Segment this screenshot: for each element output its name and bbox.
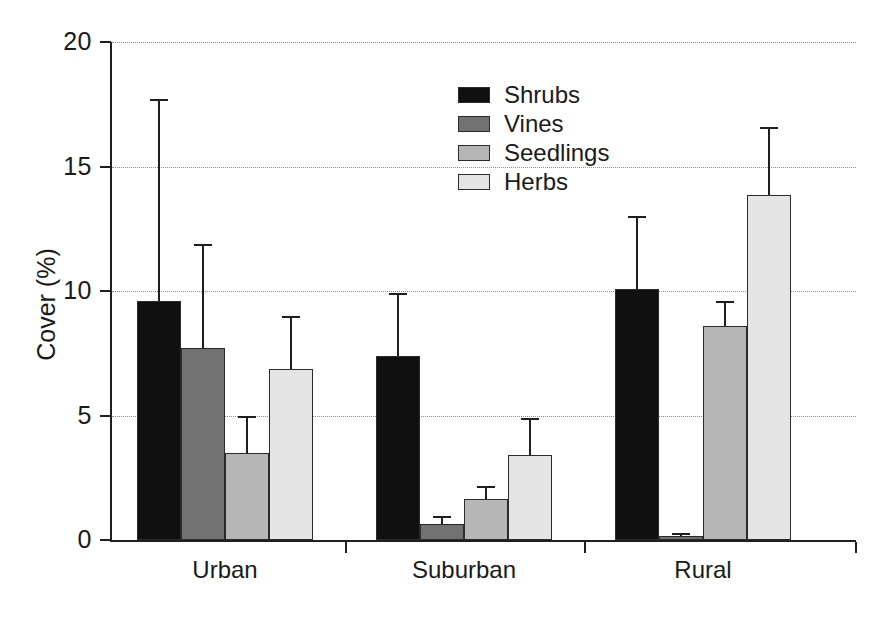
error-bar-cap	[477, 486, 495, 488]
y-axis-tick	[100, 290, 111, 292]
error-bar-stem	[158, 99, 160, 301]
error-bar-cap	[282, 316, 300, 318]
error-bar-stem	[290, 316, 292, 370]
bar-urban-shrubs	[137, 301, 181, 540]
legend-label: Herbs	[504, 170, 568, 194]
legend-label: Seedlings	[504, 141, 609, 165]
error-bar-cap	[238, 416, 256, 418]
error-bar-cap	[433, 516, 451, 518]
error-bar-stem	[397, 293, 399, 355]
error-bar-cap	[150, 99, 168, 101]
legend-item-herbs[interactable]: Herbs	[458, 169, 568, 195]
error-bar-cap	[672, 533, 690, 535]
legend-swatch-icon	[458, 116, 490, 132]
y-axis-title: Cover (%)	[32, 185, 61, 425]
error-bar-stem	[246, 416, 248, 453]
gridline	[112, 42, 856, 43]
error-bar-cap	[521, 418, 539, 420]
bar-rural-shrubs	[615, 289, 659, 540]
x-axis-tick	[345, 542, 347, 553]
y-axis-tick-label: 0	[46, 527, 92, 552]
y-axis-line	[110, 42, 112, 542]
legend-swatch-icon	[458, 145, 490, 161]
gridline	[112, 291, 856, 292]
y-axis-tick	[100, 41, 111, 43]
bar-suburban-vines	[420, 524, 464, 540]
bar-rural-seedlings	[703, 326, 747, 540]
x-axis-tick	[855, 542, 857, 553]
bar-urban-seedlings	[225, 453, 269, 540]
gridline	[112, 167, 856, 168]
y-axis-tick-label: 20	[46, 29, 92, 54]
error-bar-stem	[529, 418, 531, 455]
error-bar-cap	[760, 127, 778, 129]
y-axis-tick	[100, 415, 111, 417]
error-bar-cap	[194, 244, 212, 246]
error-bar-stem	[202, 244, 204, 349]
y-axis-tick	[100, 166, 111, 168]
legend-swatch-icon	[458, 87, 490, 103]
error-bar-cap	[628, 216, 646, 218]
chart-figure: 05101520 Cover (%) UrbanSuburbanRural Sh…	[0, 0, 883, 618]
bar-urban-herbs	[269, 369, 313, 540]
legend-label: Vines	[504, 112, 564, 136]
bar-suburban-herbs	[508, 455, 552, 540]
bar-suburban-shrubs	[376, 356, 420, 540]
error-bar-stem	[768, 127, 770, 195]
error-bar-stem	[724, 301, 726, 326]
legend-label: Shrubs	[504, 83, 580, 107]
bar-urban-vines	[181, 348, 225, 540]
legend-item-seedlings[interactable]: Seedlings	[458, 140, 609, 166]
legend-swatch-icon	[458, 174, 490, 190]
x-axis-label-rural: Rural	[603, 556, 803, 584]
x-axis-label-urban: Urban	[125, 556, 325, 584]
error-bar-stem	[636, 216, 638, 288]
y-axis-tick-label: 15	[46, 154, 92, 179]
x-axis-tick	[584, 542, 586, 553]
error-bar-cap	[716, 301, 734, 303]
bar-suburban-seedlings	[464, 499, 508, 540]
x-axis-label-suburban: Suburban	[364, 556, 564, 584]
x-axis-line	[110, 540, 856, 542]
error-bar-cap	[389, 293, 407, 295]
legend-item-shrubs[interactable]: Shrubs	[458, 82, 580, 108]
legend-item-vines[interactable]: Vines	[458, 111, 564, 137]
bar-rural-herbs	[747, 195, 791, 540]
